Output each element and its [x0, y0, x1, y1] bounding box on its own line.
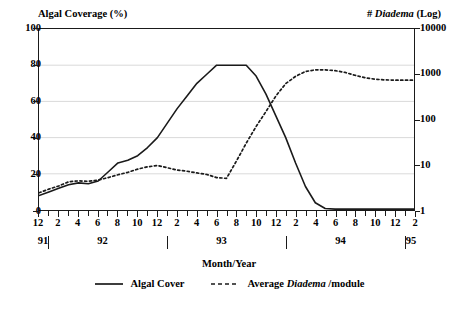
- x-axis-year-separator: [167, 236, 168, 249]
- x-axis-month-label: 10: [132, 218, 143, 229]
- x-axis-tick: [286, 211, 287, 216]
- right-axis-tick-mark: [415, 120, 420, 121]
- legend-label-diadema: Average Diadema /module: [247, 278, 364, 289]
- right-axis-tick-mark: [415, 74, 420, 75]
- x-axis-month-label: 10: [251, 218, 262, 229]
- x-axis-month-label: 10: [370, 218, 381, 229]
- series-line-algal-cover: [39, 65, 414, 209]
- legend-swatch-dashed: [210, 280, 240, 288]
- legend-label-diadema-prefix: Average: [247, 278, 286, 289]
- legend-label-algal-cover: Algal Cover: [131, 278, 185, 289]
- x-axis-year-label: 91: [38, 236, 49, 247]
- x-axis-tick: [187, 211, 188, 216]
- legend-label-diadema-genus: Diadema: [287, 278, 326, 289]
- data-series-layer: [39, 29, 414, 210]
- right-axis-tick-mark: [415, 165, 420, 166]
- x-axis-tick: [405, 211, 406, 216]
- x-axis-month-label: 6: [95, 218, 100, 229]
- x-axis-month-label: 2: [174, 218, 179, 229]
- algal-coverage-diadema-chart: Algal Coverage (%) # Diadema (Log) 02040…: [0, 0, 458, 313]
- left-axis-tick-mark: [33, 174, 38, 175]
- x-axis-month-label: 4: [194, 218, 199, 229]
- plot-area: [38, 28, 415, 211]
- x-axis-year-label: 92: [97, 236, 108, 247]
- x-axis-tick: [88, 211, 89, 216]
- x-axis-tick: [127, 211, 128, 216]
- x-axis-tick: [385, 211, 386, 216]
- x-axis-year-label: 94: [335, 236, 346, 247]
- right-axis-tick-label: 10: [420, 160, 431, 171]
- legend-entry-algal-cover: Algal Cover: [94, 278, 185, 289]
- right-axis-tick-label: 1: [420, 206, 425, 217]
- x-axis-month-label: 8: [353, 218, 358, 229]
- x-axis-month-label: 2: [55, 218, 60, 229]
- x-axis-tick: [147, 211, 148, 216]
- x-axis-month-label: 12: [271, 218, 282, 229]
- series-line-diadema: [39, 70, 414, 193]
- x-axis-month-label: 4: [75, 218, 80, 229]
- x-axis-month-label: 6: [214, 218, 219, 229]
- chart-legend: Algal Cover Average Diadema /module: [0, 278, 458, 289]
- x-axis-tick: [68, 211, 69, 216]
- left-axis-tick-mark: [33, 65, 38, 66]
- right-axis-title-genus: Diadema: [375, 8, 414, 19]
- right-axis-title-prefix: #: [367, 8, 375, 19]
- x-axis-title: Month/Year: [0, 258, 458, 269]
- x-axis-month-label: 6: [333, 218, 338, 229]
- x-axis-tick: [365, 211, 366, 216]
- x-axis-month-label: 8: [115, 218, 120, 229]
- x-axis-month-label: 2: [412, 218, 417, 229]
- right-axis-title: # Diadema (Log): [367, 8, 441, 19]
- right-axis-title-suffix: (Log): [414, 8, 441, 19]
- right-axis-tick-label: 10000: [420, 23, 446, 34]
- legend-label-diadema-suffix: /module: [326, 278, 365, 289]
- x-axis-month-label: 12: [390, 218, 401, 229]
- left-axis-tick-mark: [33, 101, 38, 102]
- x-axis-year-label: 95: [406, 236, 417, 247]
- x-axis-year-separator: [48, 236, 49, 249]
- x-axis-month-label: 4: [313, 218, 318, 229]
- right-axis-tick-mark: [415, 28, 420, 29]
- legend-swatch-solid: [94, 280, 124, 288]
- x-axis-tick: [107, 211, 108, 216]
- legend-entry-diadema: Average Diadema /module: [210, 278, 364, 289]
- right-axis-tick-label: 1000: [420, 68, 441, 79]
- x-axis-tick: [167, 211, 168, 216]
- left-axis-tick-mark: [33, 28, 38, 29]
- x-axis-tick: [227, 211, 228, 216]
- x-axis-month-label: 8: [234, 218, 239, 229]
- x-axis-year-label: 93: [216, 236, 227, 247]
- x-axis-year-labels: 9192939495: [0, 236, 458, 252]
- x-axis-year-separator: [405, 236, 406, 249]
- x-axis-tick: [266, 211, 267, 216]
- x-axis-tick: [326, 211, 327, 216]
- x-axis-month-labels: 122468101224681012246810122: [0, 218, 458, 232]
- x-axis-year-separator: [286, 236, 287, 249]
- left-axis-title: Algal Coverage (%): [38, 8, 127, 19]
- x-axis-month-label: 12: [152, 218, 163, 229]
- x-axis-tick: [207, 211, 208, 216]
- left-axis-tick-mark: [33, 138, 38, 139]
- x-axis-tick: [346, 211, 347, 216]
- x-axis-tick: [48, 211, 49, 216]
- x-axis-tick: [306, 211, 307, 216]
- right-axis-tick-label: 100: [420, 114, 436, 125]
- x-axis-tick: [246, 211, 247, 216]
- x-axis-month-label: 2: [293, 218, 298, 229]
- x-axis-month-label: 12: [33, 218, 44, 229]
